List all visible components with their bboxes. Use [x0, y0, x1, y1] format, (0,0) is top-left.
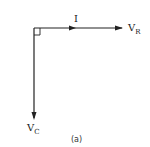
vr-label-sub: R [135, 28, 140, 36]
vr-label: VR [128, 23, 141, 37]
current-label: I [74, 14, 78, 24]
phasor-diagram: I VR VC (a) [0, 0, 150, 147]
right-angle-marker-icon [34, 28, 40, 35]
vc-label: VC [27, 123, 40, 137]
vc-label-sub: C [34, 128, 39, 136]
figure-caption: (a) [71, 135, 82, 144]
vc-arrow-icon [32, 112, 37, 120]
current-arrow-icon [69, 26, 76, 31]
vr-arrow-icon [115, 26, 123, 31]
